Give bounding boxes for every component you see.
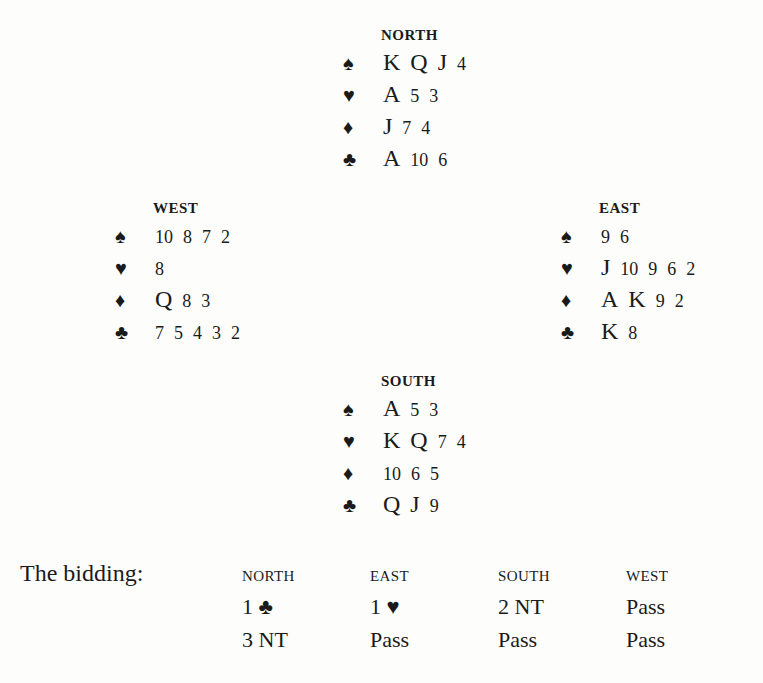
card: 3 xyxy=(201,291,210,311)
card-list: K8 xyxy=(601,318,647,344)
south-hand: SOUTH ♠A53♥KQ74♦1065♣QJ9 xyxy=(343,370,476,520)
card: 8 xyxy=(183,227,192,247)
card: 6 xyxy=(620,227,629,247)
heart-icon: ♥ xyxy=(115,252,155,284)
card: K xyxy=(383,49,400,75)
card: 2 xyxy=(686,259,695,279)
card: J xyxy=(383,113,392,139)
diamond-suit-row: ♦Q83 xyxy=(115,283,250,315)
card: 3 xyxy=(212,323,221,343)
card: 4 xyxy=(421,118,430,138)
card-list: KQ74 xyxy=(383,427,476,453)
bidding-title: The bidding: xyxy=(20,560,143,587)
hand-label: WEST xyxy=(153,197,250,219)
bid: Pass xyxy=(370,623,498,656)
spade-suit-row: ♠10872 xyxy=(115,219,250,251)
bidding-round: 1 ♣1 ♥2 NTPass xyxy=(242,590,754,623)
west-hand: WEST ♠10872♥8♦Q83♣75432 xyxy=(115,197,250,347)
diamond-icon: ♦ xyxy=(115,284,155,316)
club-icon: ♣ xyxy=(343,143,383,175)
card-list: QJ9 xyxy=(383,491,449,517)
card: 2 xyxy=(675,291,684,311)
heart-suit-row: ♥8 xyxy=(115,251,250,283)
card: K xyxy=(383,427,400,453)
card: 3 xyxy=(429,86,438,106)
card-list: 10872 xyxy=(155,222,240,248)
card: 9 xyxy=(430,496,439,516)
club-suit-row: ♣75432 xyxy=(115,315,250,347)
card: 7 xyxy=(155,323,164,343)
bidding-header-north: NORTH xyxy=(242,562,370,590)
club-icon: ♣ xyxy=(561,316,601,348)
hand-label: EAST xyxy=(599,197,705,219)
hand-label: NORTH xyxy=(381,24,476,46)
card-list: A106 xyxy=(383,145,457,171)
club-icon: ♣ xyxy=(343,489,383,521)
heart-suit-row: ♥A53 xyxy=(343,78,476,110)
diamond-icon: ♦ xyxy=(343,111,383,143)
card: Q xyxy=(383,491,400,517)
card: 10 xyxy=(383,464,401,484)
card: 5 xyxy=(174,323,183,343)
card: A xyxy=(601,286,618,312)
card: 9 xyxy=(656,291,665,311)
card: A xyxy=(383,81,400,107)
card: K xyxy=(601,318,618,344)
east-hand: EAST ♠96♥J10962♦AK92♣K8 xyxy=(561,197,705,347)
card: 5 xyxy=(410,400,419,420)
card: 3 xyxy=(429,400,438,420)
card: 2 xyxy=(221,227,230,247)
spade-suit-row: ♠A53 xyxy=(343,392,476,424)
card-list: J74 xyxy=(383,113,440,139)
card-list: 8 xyxy=(155,254,174,280)
card-list: Q83 xyxy=(155,286,220,312)
heart-suit-row: ♥J10962 xyxy=(561,251,705,283)
card: 9 xyxy=(648,259,657,279)
spade-icon: ♠ xyxy=(115,220,155,252)
card: A xyxy=(383,395,400,421)
heart-icon: ♥ xyxy=(561,252,601,284)
card: A xyxy=(383,145,400,171)
card-list: A53 xyxy=(383,81,448,107)
card: 7 xyxy=(438,432,447,452)
spade-icon: ♠ xyxy=(343,47,383,79)
card: 8 xyxy=(155,259,164,279)
card: 5 xyxy=(430,464,439,484)
spade-icon: ♠ xyxy=(561,220,601,252)
card: 10 xyxy=(620,259,638,279)
card: 10 xyxy=(410,150,428,170)
card: Q xyxy=(410,49,427,75)
card: 7 xyxy=(202,227,211,247)
card-list: 1065 xyxy=(383,459,449,485)
diamond-icon: ♦ xyxy=(343,457,383,489)
card: K xyxy=(628,286,645,312)
card: Q xyxy=(410,427,427,453)
bidding-header-east: EAST xyxy=(370,562,498,590)
diamond-suit-row: ♦AK92 xyxy=(561,283,705,315)
card: 9 xyxy=(601,227,610,247)
diamond-suit-row: ♦J74 xyxy=(343,110,476,142)
card: 8 xyxy=(182,291,191,311)
card: J xyxy=(410,491,419,517)
card: 6 xyxy=(667,259,676,279)
bidding-header-south: SOUTH xyxy=(498,562,626,590)
card-list: AK92 xyxy=(601,286,694,312)
card: 7 xyxy=(402,118,411,138)
spade-suit-row: ♠96 xyxy=(561,219,705,251)
bidding-header-west: WEST xyxy=(626,562,754,590)
hand-label: SOUTH xyxy=(381,370,476,392)
north-hand: NORTH ♠KQJ4♥A53♦J74♣A106 xyxy=(343,24,476,174)
bidding-header-row: NORTHEASTSOUTHWEST xyxy=(242,562,754,590)
diamond-suit-row: ♦1065 xyxy=(343,456,476,488)
card-list: 75432 xyxy=(155,318,250,344)
bid: 2 NT xyxy=(498,590,626,623)
card-list: A53 xyxy=(383,395,448,421)
bid: 1 ♣ xyxy=(242,590,370,623)
heart-icon: ♥ xyxy=(343,425,383,457)
club-suit-row: ♣K8 xyxy=(561,315,705,347)
bidding-round: 3 NTPassPassPass xyxy=(242,623,754,656)
spade-suit-row: ♠KQJ4 xyxy=(343,46,476,78)
bid: 3 NT xyxy=(242,623,370,656)
card: 6 xyxy=(411,464,420,484)
card: 4 xyxy=(457,54,466,74)
